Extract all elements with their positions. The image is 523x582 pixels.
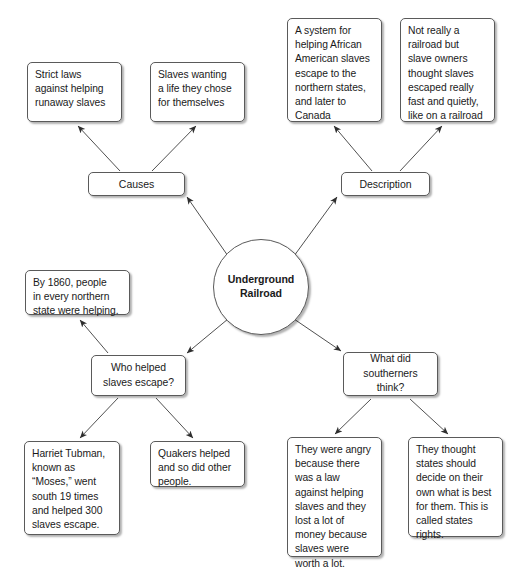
node-who-helped-1[interactable]: Harriet Tubman, known as “Moses,” went s…: [24, 441, 120, 535]
node-description-2-text: Not really a railroad but slave owners t…: [408, 24, 488, 123]
node-description[interactable]: Description: [341, 172, 430, 196]
edge-center-to-southerners: [294, 319, 341, 351]
node-description-1[interactable]: A system for helping African American sl…: [287, 18, 382, 122]
node-who-helped-0-text: By 1860, people in every northern state …: [33, 276, 123, 319]
node-causes-1[interactable]: Strict laws against helping runaway slav…: [27, 62, 122, 122]
node-who-helped-label: Who helped slaves escape?: [103, 361, 174, 390]
edge-causes-to-causes-1: [78, 126, 120, 171]
concept-map-canvas: Strict laws against helping runaway slav…: [0, 0, 523, 582]
node-who-helped-2-text: Quakers helped and so did other people.: [158, 447, 238, 490]
node-southerners-1[interactable]: They were angry because there was a law …: [287, 437, 382, 557]
node-description-1-text: A system for helping African American sl…: [295, 24, 375, 123]
node-southerners[interactable]: What did southerners think?: [343, 352, 438, 396]
node-causes-1-text: Strict laws against helping runaway slav…: [35, 68, 115, 111]
edge-center-to-who-helped: [187, 319, 228, 353]
edge-who-helped-to-who-helped-0: [80, 320, 108, 353]
node-southerners-1-text: They were angry because there was a law …: [295, 443, 375, 571]
edge-center-to-causes: [187, 197, 228, 256]
node-who-helped[interactable]: Who helped slaves escape?: [91, 355, 186, 396]
edge-who-helped-to-who-helped-1: [80, 398, 118, 438]
edge-causes-to-causes-2: [152, 126, 196, 171]
node-who-helped-2[interactable]: Quakers helped and so did other people.: [150, 441, 245, 487]
node-causes-label: Causes: [119, 177, 154, 191]
edge-center-to-description: [294, 197, 337, 256]
node-causes[interactable]: Causes: [88, 172, 185, 196]
node-description-2[interactable]: Not really a railroad but slave owners t…: [400, 18, 495, 122]
node-southerners-2-text: They thought states should decide on the…: [416, 443, 496, 542]
node-causes-2-text: Slaves wanting a life they chose for the…: [158, 68, 238, 111]
edge-description-to-description-1: [334, 126, 372, 171]
node-causes-2[interactable]: Slaves wanting a life they chose for the…: [150, 62, 245, 122]
node-description-label: Description: [360, 177, 412, 191]
edge-southerners-to-southerners-1: [335, 399, 371, 434]
edge-description-to-description-2: [400, 126, 442, 171]
node-center-underground-railroad[interactable]: Underground Railroad: [213, 239, 309, 335]
node-southerners-2[interactable]: They thought states should decide on the…: [408, 437, 503, 537]
edge-who-helped-to-who-helped-2: [156, 398, 193, 438]
node-southerners-label: What did southerners think?: [363, 352, 417, 395]
node-who-helped-0[interactable]: By 1860, people in every northern state …: [25, 270, 130, 315]
edge-southerners-to-southerners-2: [410, 399, 448, 434]
node-who-helped-1-text: Harriet Tubman, known as “Moses,” went s…: [32, 447, 113, 532]
node-center-label: Underground Railroad: [228, 273, 295, 300]
